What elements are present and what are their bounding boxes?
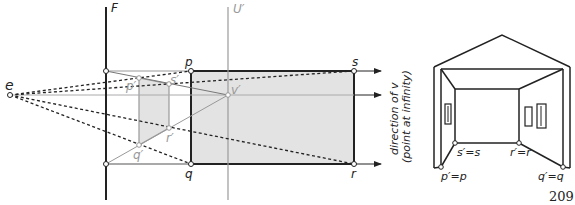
perspective-diagram: F U′ e p q s r p′ s′ r′ q′ v′ direction … xyxy=(0,0,575,205)
point-r-prime xyxy=(167,126,172,131)
room-label-r: r′=r xyxy=(510,146,532,159)
point-q xyxy=(189,162,194,167)
room-figure xyxy=(434,35,570,168)
point-p-prime xyxy=(137,76,142,81)
label-q-prime: q′ xyxy=(133,148,144,162)
window-right-1 xyxy=(525,107,532,126)
back-wall xyxy=(455,89,519,143)
roof xyxy=(434,35,570,67)
page-number: 209 xyxy=(549,189,574,204)
label-r: r xyxy=(351,167,357,181)
shaded-rectangle-pqrs xyxy=(191,71,354,164)
room-label-s: s′=s xyxy=(457,146,480,159)
label-s-prime: s′ xyxy=(170,73,179,87)
label-p: p xyxy=(184,55,193,69)
label-r-prime: r′ xyxy=(166,131,174,145)
label-U-prime: U′ xyxy=(233,2,245,16)
direction-caption: direction of v (point at infinity) xyxy=(388,70,413,163)
label-v-prime: v′ xyxy=(231,83,241,97)
label-p-prime: p′ xyxy=(125,79,137,93)
room-label-q: q′=q xyxy=(538,170,564,183)
point-r xyxy=(352,162,357,167)
point-q-prime xyxy=(137,143,142,148)
svg-text:(point at infinity): (point at infinity) xyxy=(400,70,413,163)
left-figure: F U′ e p q s r p′ s′ r′ q′ v′ direction … xyxy=(5,1,413,200)
label-q: q xyxy=(185,167,193,181)
point-e xyxy=(8,93,13,98)
direction-arrows xyxy=(354,71,381,164)
label-e: e xyxy=(5,77,14,93)
shaded-projection-quad xyxy=(139,78,169,145)
room-label-p: p′=p xyxy=(440,170,467,183)
point-v-prime xyxy=(226,93,231,98)
label-F: F xyxy=(111,1,119,15)
point-p xyxy=(189,69,194,74)
label-s: s xyxy=(352,55,358,69)
point-s xyxy=(352,69,357,74)
